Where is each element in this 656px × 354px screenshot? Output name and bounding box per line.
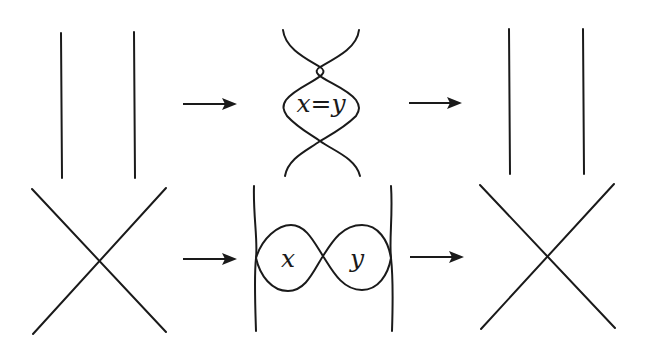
right-arrow-icon bbox=[183, 98, 237, 110]
region-label-x-equals-y: x=y bbox=[296, 89, 346, 118]
right-arrow-icon bbox=[183, 253, 237, 265]
diagram-canvas: x=y x y bbox=[0, 0, 656, 354]
strand-right bbox=[134, 32, 135, 178]
figure-eight-curve bbox=[256, 225, 391, 291]
panel-crossing-bottom-left bbox=[32, 188, 166, 334]
right-arrow-icon bbox=[410, 251, 464, 263]
panel-crossing-bottom-right bbox=[480, 184, 615, 329]
panel-parallel-strands-top-left bbox=[61, 32, 135, 178]
loop-label-x: x bbox=[281, 244, 295, 273]
panel-double-twist: x=y bbox=[283, 30, 360, 176]
strand-left bbox=[509, 29, 510, 174]
panel-parallel-strands-top-right bbox=[509, 29, 584, 174]
right-arrow-icon bbox=[409, 97, 462, 109]
strand-left bbox=[61, 33, 62, 178]
panel-figure-eight: x y bbox=[254, 186, 393, 331]
strand-right bbox=[583, 29, 584, 174]
loop-label-y: y bbox=[349, 244, 365, 273]
